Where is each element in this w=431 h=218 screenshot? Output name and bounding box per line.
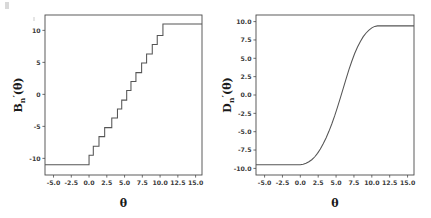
y-tick-label: -10.0 (234, 165, 253, 172)
x-axis-label-right: θ (331, 197, 338, 210)
y-tick-label: 2.5 (241, 73, 252, 80)
x-tick-label: -5.0 (47, 179, 61, 186)
y-tick-label: 10.0 (236, 18, 252, 25)
x-axis-label-left: θ (120, 197, 127, 210)
y-tick-label: 0.0 (241, 91, 253, 98)
x-tick-label: 12.5 (170, 179, 185, 186)
y-tick-label: -7.5 (238, 146, 252, 153)
chart-panel-right: -5.0-2.50.02.55.07.510.012.515.0 -10.0-7… (215, 0, 431, 218)
plot-left-svg: -5.0-2.50.02.55.07.510.012.515.0 -10-505… (0, 0, 215, 218)
y-tick-label: 5.0 (241, 55, 253, 62)
figure-container: -5.0-2.50.02.55.07.510.012.515.0 -10-505… (0, 0, 431, 218)
x-tick-label: 5.0 (119, 179, 131, 186)
x-axis-ticklabels-left: -5.0-2.50.02.55.07.510.012.515.0 (47, 179, 204, 186)
x-tick-label: -5.0 (258, 179, 272, 186)
chart-panel-left: -5.0-2.50.02.55.07.510.012.515.0 -10-505… (0, 0, 215, 218)
x-tick-label: 7.5 (348, 179, 359, 186)
plot-frame-right (256, 15, 414, 175)
x-tick-label: 10.0 (152, 179, 168, 186)
plot-right-svg: -5.0-2.50.02.55.07.510.012.515.0 -10.0-7… (215, 0, 431, 218)
x-tick-label: -2.5 (65, 179, 79, 186)
x-tick-label: 0.0 (84, 179, 96, 186)
x-tick-label: 7.5 (137, 179, 148, 186)
x-tick-label: 10.0 (364, 179, 380, 186)
x-tick-label: 2.5 (313, 179, 324, 186)
y-axis-ticklabels-left: -10-50510 (29, 27, 41, 162)
x-tick-label: 15.0 (188, 179, 204, 186)
x-tick-label: 5.0 (331, 179, 343, 186)
y-axis-label-right: Dn′(θ) (221, 77, 236, 112)
y-axis-ticklabels-right: -10.0-7.5-5.0-2.50.02.55.07.510.0 (234, 18, 253, 172)
step-function-curve-left (45, 24, 202, 165)
y-tick-label: 0 (36, 91, 41, 98)
y-tick-label: 10 (32, 27, 41, 34)
x-axis-ticklabels-right: -5.0-2.50.02.55.07.510.012.515.0 (258, 179, 416, 186)
y-tick-label: 7.5 (241, 36, 252, 43)
y-tick-label: -10 (29, 155, 41, 162)
y-tick-label: -5 (34, 123, 41, 130)
y-axis-label-left: Bn′(θ) (12, 77, 27, 112)
y-tick-label: 5 (36, 59, 40, 66)
sigmoid-curve-right (256, 26, 414, 165)
x-tick-label: 12.5 (382, 179, 397, 186)
x-tick-label: 2.5 (101, 179, 112, 186)
x-tick-label: -2.5 (276, 179, 290, 186)
y-tick-label: -5.0 (238, 128, 252, 135)
y-tick-label: -2.5 (238, 110, 252, 117)
plot-frame-left (45, 15, 202, 175)
x-tick-label: 15.0 (400, 179, 416, 186)
x-tick-label: 0.0 (295, 179, 307, 186)
